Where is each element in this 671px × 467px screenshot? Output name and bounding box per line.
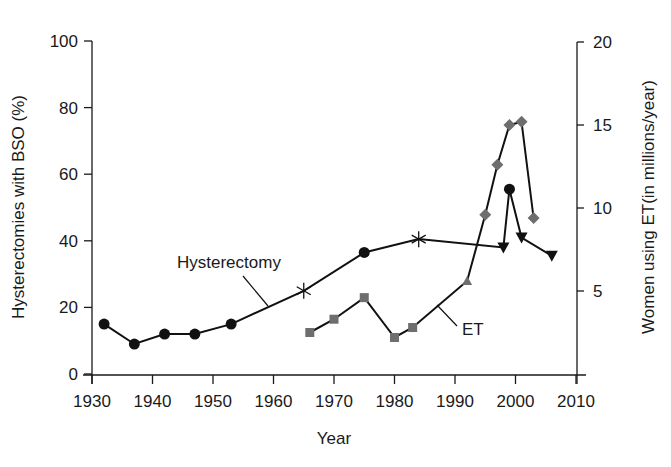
left-y-axis-ticks: 020406080100 <box>50 32 92 384</box>
x-axis-ticks: 193019401950196019701980199020002010 <box>73 375 595 411</box>
triangle-up-marker <box>462 276 472 285</box>
diamond-marker <box>528 212 540 224</box>
circle-marker <box>129 339 140 350</box>
series-markers <box>99 116 558 350</box>
left-y-tick-label: 20 <box>59 298 78 317</box>
asterisk-marker <box>297 283 311 299</box>
triangle-down-marker <box>546 251 558 262</box>
right-y-tick-label: 20 <box>593 33 612 52</box>
diamond-marker <box>491 159 503 171</box>
x-tick-label: 2010 <box>557 392 595 411</box>
x-tick-label: 1930 <box>73 392 111 411</box>
left-y-tick-label: 80 <box>59 99 78 118</box>
series-lines <box>104 122 552 344</box>
left-y-tick-label: 0 <box>69 365 78 384</box>
x-tick-label: 1990 <box>436 392 474 411</box>
x-tick-label: 1960 <box>255 392 293 411</box>
x-tick-label: 1980 <box>376 392 414 411</box>
circle-marker <box>359 247 370 258</box>
x-tick-label: 1950 <box>194 392 232 411</box>
hysterectomy-leader-line <box>243 276 268 306</box>
triangle-down-marker <box>516 232 528 243</box>
x-axis-title: Year <box>317 429 352 448</box>
x-tick-label: 2000 <box>497 392 535 411</box>
circle-marker <box>159 329 170 340</box>
hysterectomy-annotation: Hysterectomy <box>177 253 281 306</box>
right-y-tick-label: 15 <box>593 116 612 135</box>
et-leader-line <box>437 305 457 326</box>
diamond-marker <box>503 119 515 131</box>
x-tick-label: 1940 <box>134 392 172 411</box>
left-y-tick-label: 60 <box>59 165 78 184</box>
axes <box>83 41 586 384</box>
left-y-tick-label: 40 <box>59 232 78 251</box>
diamond-marker <box>516 116 528 128</box>
hysterectomy-label: Hysterectomy <box>177 253 281 272</box>
et-label: ET <box>462 320 484 339</box>
right-y-axis-ticks: 5101520 <box>577 33 612 301</box>
right-y-axis-title: Women using ET(in millions/year) <box>639 80 658 334</box>
circle-marker <box>189 329 200 340</box>
circle-marker <box>226 319 237 330</box>
right-y-tick-label: 5 <box>593 282 602 301</box>
et-annotation: ET <box>437 305 484 339</box>
circle-marker <box>99 319 110 330</box>
square-marker <box>408 323 417 332</box>
square-marker <box>390 333 399 342</box>
dual-axis-line-chart: 193019401950196019701980199020002010 020… <box>0 0 671 467</box>
diamond-marker <box>479 209 491 221</box>
left-y-axis-title: Hysterectomies with BSO (%) <box>9 95 28 319</box>
et-line <box>310 122 534 338</box>
right-y-tick-label: 10 <box>593 199 612 218</box>
left-y-tick-label: 100 <box>50 32 78 51</box>
circle-marker <box>504 184 515 195</box>
square-marker <box>360 293 369 302</box>
x-tick-label: 1970 <box>315 392 353 411</box>
square-marker <box>305 328 314 337</box>
square-marker <box>330 315 339 324</box>
